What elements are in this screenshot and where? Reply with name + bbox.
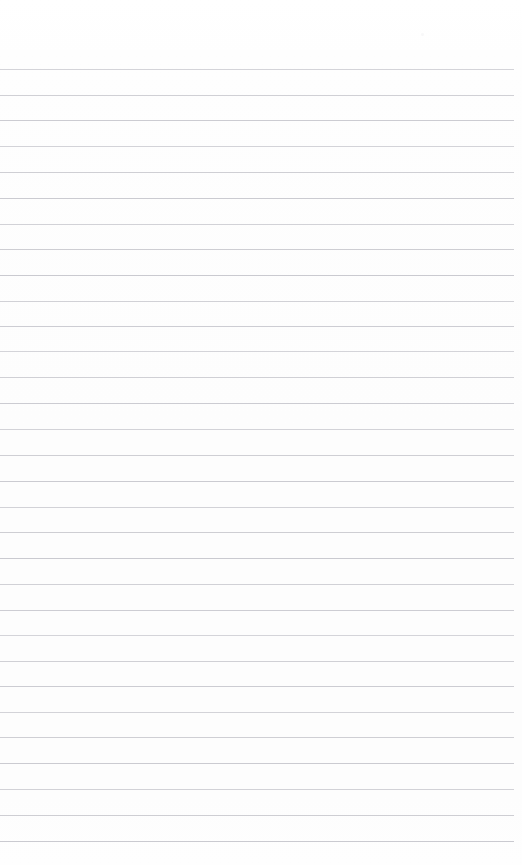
ruled-line <box>0 146 514 147</box>
ruled-line <box>0 841 514 842</box>
ruled-line <box>0 686 514 687</box>
ruled-line <box>0 507 514 508</box>
ruled-line <box>0 377 514 378</box>
ruled-line <box>0 249 514 250</box>
ruled-line <box>0 403 514 404</box>
ruled-line <box>0 172 514 173</box>
ruled-line <box>0 120 514 121</box>
ruled-line <box>0 301 514 302</box>
ruled-line <box>0 429 514 430</box>
ruled-line <box>0 789 514 790</box>
ruled-line <box>0 584 514 585</box>
ruled-line <box>0 326 514 327</box>
ruled-line <box>0 455 514 456</box>
ruled-line <box>0 763 514 764</box>
ruled-line <box>0 481 514 482</box>
scanned-page <box>0 0 522 865</box>
ruled-line <box>0 737 514 738</box>
ruled-line <box>0 661 514 662</box>
ruled-line <box>0 635 514 636</box>
ruled-line <box>0 610 514 611</box>
ruled-line <box>0 198 514 199</box>
ruled-line <box>0 69 514 70</box>
ruled-line <box>0 224 514 225</box>
ruled-line <box>0 558 514 559</box>
ruled-line <box>0 712 514 713</box>
ruled-line <box>0 532 514 533</box>
ruled-line <box>0 95 514 96</box>
ruled-line <box>0 351 514 352</box>
ruled-lines-layer <box>0 0 522 865</box>
ruled-line <box>0 275 514 276</box>
ruled-line <box>0 815 514 816</box>
